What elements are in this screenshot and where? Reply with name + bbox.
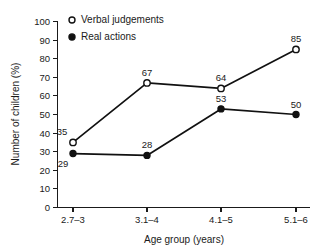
- legend-marker-1: [69, 17, 75, 23]
- series-line-1: [73, 49, 296, 142]
- x-axis-tick-label: 2.7–3: [61, 214, 85, 225]
- y-axis-tick-label: 10: [39, 183, 50, 194]
- data-label-2-1: 29: [58, 158, 69, 169]
- data-label-1-4: 85: [291, 33, 302, 44]
- data-point-1-4: [293, 46, 299, 52]
- x-axis-title: Age group (years): [144, 234, 224, 245]
- y-axis-tick-label: 60: [39, 90, 50, 101]
- data-point-2-3: [218, 106, 224, 112]
- y-axis-tick-label: 100: [34, 16, 50, 27]
- data-point-2-2: [144, 152, 150, 158]
- data-label-1-1: 35: [57, 126, 68, 137]
- data-label-2-3: 53: [216, 93, 227, 104]
- y-axis-tick-label: 70: [39, 72, 50, 83]
- legend-label-1: Verbal judgements: [81, 14, 164, 25]
- chart-canvas: 01020304050607080901002.7–33.1–44.1–55.1…: [0, 0, 324, 252]
- y-axis-tick-label: 80: [39, 53, 50, 64]
- data-point-1-3: [218, 85, 224, 91]
- x-axis-tick-label: 3.1–4: [135, 214, 159, 225]
- y-axis-tick-label: 90: [39, 35, 50, 46]
- data-point-1-2: [144, 80, 150, 86]
- y-axis-title: Number of children (%): [10, 63, 21, 166]
- y-axis-tick-label: 0: [45, 202, 50, 213]
- y-axis-tick-label: 50: [39, 109, 50, 120]
- data-label-1-3: 64: [216, 72, 227, 83]
- data-point-2-1: [70, 150, 76, 156]
- data-point-1-1: [70, 139, 76, 145]
- data-point-2-4: [293, 111, 299, 117]
- x-axis-tick-label: 5.1–6: [284, 214, 308, 225]
- data-label-1-2: 67: [142, 67, 153, 78]
- data-label-2-4: 50: [291, 99, 302, 110]
- y-axis-tick-label: 30: [39, 146, 50, 157]
- legend-marker-2: [69, 34, 75, 40]
- legend-label-2: Real actions: [81, 31, 136, 42]
- y-axis-tick-label: 20: [39, 165, 50, 176]
- y-axis-tick-label: 40: [39, 128, 50, 139]
- line-chart: 01020304050607080901002.7–33.1–44.1–55.1…: [0, 0, 324, 252]
- data-label-2-2: 28: [142, 139, 153, 150]
- x-axis-tick-label: 4.1–5: [209, 214, 233, 225]
